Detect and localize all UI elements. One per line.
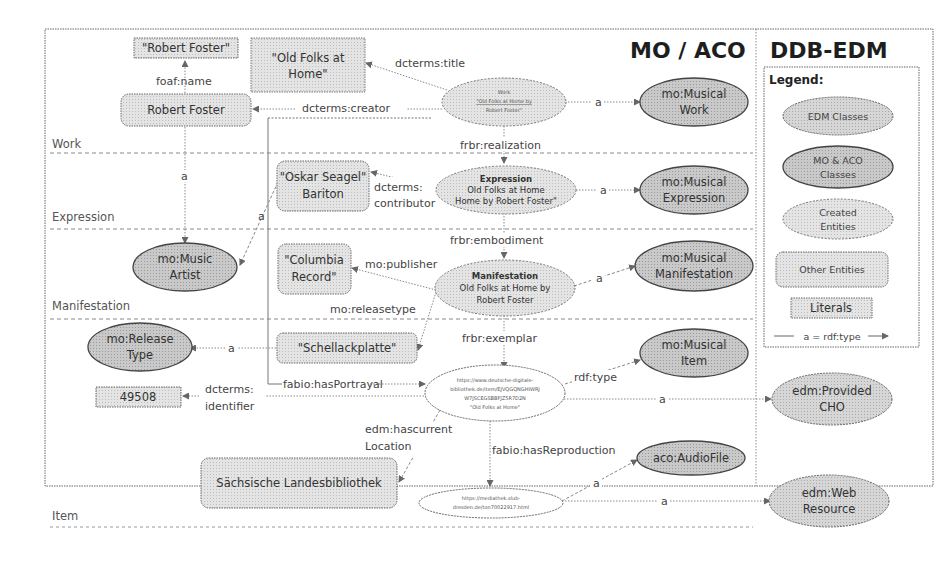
node-mo-musical-manifestation: mo:Musical Manifestation <box>635 241 753 291</box>
node-mo-musical-expression: mo:Musical Expression <box>640 166 748 214</box>
svg-text:https://www.deutsche-digitale-: https://www.deutsche-digitale- <box>457 377 534 384</box>
edge-label-dcterms-contributor-2: contributor <box>374 197 436 210</box>
node-work: Work "Old Folks at Home by Robert Foster… <box>442 78 566 126</box>
edge-a-artist-2 <box>240 182 278 265</box>
svg-text:https://mediathek.slub-: https://mediathek.slub- <box>462 495 521 502</box>
edge-label-a-manifestation: a <box>596 272 603 285</box>
svg-text:Manifestation: Manifestation <box>472 271 538 281</box>
edge-label-edm-hascurrentlocation: edm:hascurrent <box>365 423 453 436</box>
svg-text:Manifestation: Manifestation <box>655 267 733 281</box>
svg-text:Work: Work <box>498 89 511 95</box>
node-schellackplatte: "Schellackplatte" <box>277 333 417 363</box>
svg-text:Expression: Expression <box>480 174 532 184</box>
edge-label-a-cho: a <box>659 393 666 406</box>
svg-text:CHO: CHO <box>819 400 845 414</box>
lane-label-work: Work <box>52 137 81 151</box>
svg-text:Artist: Artist <box>170 268 201 282</box>
edge-label-foaf-name: foaf:name <box>156 75 212 88</box>
edge-label-frbr-realization: frbr:realization <box>460 139 541 152</box>
node-mo-musical-item: mo:Musical Item <box>640 329 748 377</box>
edge-label-dcterms-creator: dcterms:creator <box>302 102 390 115</box>
legend: Legend: EDM Classes MO & ACO Classes Cre… <box>764 67 919 347</box>
svg-text:EDM Classes: EDM Classes <box>808 111 868 122</box>
node-item: https://www.deutsche-digitale- bibliothe… <box>425 365 565 421</box>
edge-label-a-webresource: a <box>661 495 668 508</box>
node-mo-music-artist: mo:Music Artist <box>133 243 237 291</box>
svg-text:edm:Web: edm:Web <box>802 486 857 500</box>
svg-text:49508: 49508 <box>120 390 157 404</box>
svg-text:"Schellackplatte": "Schellackplatte" <box>298 341 397 355</box>
svg-text:mo:Musical: mo:Musical <box>661 338 726 352</box>
svg-text:Other Entities: Other Entities <box>799 264 865 275</box>
svg-text:mo:Release: mo:Release <box>106 332 173 346</box>
svg-text:Literals: Literals <box>810 301 852 315</box>
edge-label-frbr-embodiment: frbr:embodiment <box>450 234 544 247</box>
node-edm-web-resource: edm:Web Resource <box>769 475 889 527</box>
svg-text:Bariton: Bariton <box>302 187 344 201</box>
svg-text:Classes: Classes <box>820 169 856 180</box>
svg-text:edm:Provided: edm:Provided <box>792 384 871 398</box>
svg-text:Home": Home" <box>288 67 327 81</box>
edge-label-a-releasetype: a <box>228 342 235 355</box>
node-literal-old-folks: "Old Folks at Home" <box>251 38 365 92</box>
node-literal-robert-foster: "Robert Foster" <box>134 38 238 58</box>
node-oskar-seagel: "Oskar Seagel" Bariton <box>277 161 369 211</box>
svg-text:a = rdf:type: a = rdf:type <box>803 331 860 342</box>
edge-label-mo-releasetype: mo:releasetype <box>330 303 416 316</box>
title-ddb-edm: DDB-EDM <box>770 38 888 63</box>
edge-label-mo-publisher: mo:publisher <box>365 258 438 271</box>
svg-text:mo:Musical: mo:Musical <box>661 251 726 265</box>
svg-text:Created: Created <box>819 207 857 218</box>
svg-text:dresden.de/ton70022917.html: dresden.de/ton70022917.html <box>453 504 529 510</box>
svg-text:"Old Folks at Home": "Old Folks at Home" <box>470 404 520 410</box>
edge-label-dcterms-contributor: dcterms: <box>374 181 423 194</box>
svg-text:Home by Robert Foster": Home by Robert Foster" <box>455 196 557 206</box>
edge-label-a-artist-1: a <box>181 170 188 183</box>
edge-label-dcterms-identifier: dcterms: <box>205 383 254 396</box>
node-robert-foster: Robert Foster <box>121 94 251 126</box>
svg-text:Resource: Resource <box>803 502 856 516</box>
svg-text:Robert Foster: Robert Foster <box>147 103 225 117</box>
svg-text:"Robert Foster": "Robert Foster" <box>142 41 230 55</box>
edge-label-fabio-hasportrayal: fabio:hasPortrayal <box>283 378 383 391</box>
legend-created-entities: Created Entities <box>783 199 893 239</box>
node-mo-release-type: mo:Release Type <box>88 323 192 371</box>
title-mo-aco: MO / ACO <box>630 38 746 63</box>
svg-text:Item: Item <box>681 354 707 368</box>
svg-text:Type: Type <box>126 348 153 362</box>
svg-text:Work: Work <box>679 103 708 117</box>
svg-text:Sächsische Landesbibliothek: Sächsische Landesbibliothek <box>216 476 382 490</box>
legend-title: Legend: <box>769 73 823 87</box>
svg-text:aco:AudioFile: aco:AudioFile <box>653 451 729 465</box>
node-slub: Sächsische Landesbibliothek <box>201 458 397 508</box>
svg-text:mo:Musical: mo:Musical <box>661 87 726 101</box>
legend-literals: Literals <box>791 298 872 318</box>
edge-mo-releasetype <box>418 292 436 350</box>
edge-label-a-audiofile: a <box>593 477 600 490</box>
node-literal-49508: 49508 <box>96 387 181 407</box>
node-mo-musical-work: mo:Musical Work <box>640 78 748 126</box>
svg-text:W7JSCEGSBBFJZ5R7D2N: W7JSCEGSBBFJZ5R7D2N <box>464 395 526 401</box>
svg-text:Robert Foster: Robert Foster <box>476 295 534 305</box>
node-expression: Expression Old Folks at Home Home by Rob… <box>436 166 576 214</box>
node-aco-audiofile: aco:AudioFile <box>637 441 745 475</box>
node-columbia-record: "Columbia Record" <box>278 244 351 294</box>
legend-other-entities: Other Entities <box>776 252 888 287</box>
node-edm-provided-cho: edm:Provided CHO <box>772 373 892 425</box>
svg-text:"Old Folks at Home by: "Old Folks at Home by <box>476 98 532 105</box>
svg-text:Record": Record" <box>291 270 336 284</box>
svg-text:Entities: Entities <box>820 221 856 232</box>
svg-text:"Old Folks at: "Old Folks at <box>272 51 345 65</box>
rdf-mapping-diagram: MO / ACO DDB-EDM Work Expression Manifes… <box>0 0 952 571</box>
svg-text:mo:Musical: mo:Musical <box>661 175 726 189</box>
edge-label-dcterms-title: dcterms:title <box>395 57 465 70</box>
edge-label-frbr-exemplar: frbr:exemplar <box>462 332 537 345</box>
svg-text:Robert Foster": Robert Foster" <box>486 107 522 113</box>
edge-label-rdf-type: rdf:type <box>574 371 617 384</box>
lane-label-manifestation: Manifestation <box>52 299 130 313</box>
legend-edm-classes: EDM Classes <box>783 97 893 135</box>
legend-mo-aco-classes: MO & ACO Classes <box>783 146 893 188</box>
svg-text:mo:Music: mo:Music <box>158 252 213 266</box>
svg-text:Old Folks at Home: Old Folks at Home <box>467 185 545 195</box>
edge-label-edm-hascurrentlocation-2: Location <box>365 440 412 453</box>
